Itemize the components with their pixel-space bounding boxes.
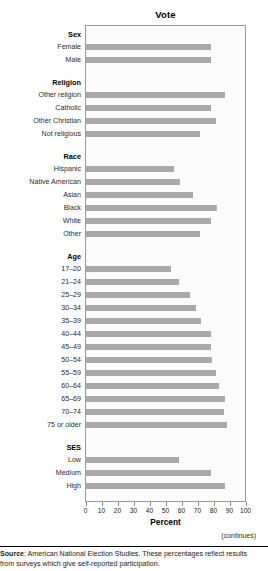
bar-row: Other religion <box>0 89 268 102</box>
bar-row: Female <box>0 41 268 54</box>
footer-divider <box>0 546 268 547</box>
bar-row: 50–54 <box>0 354 268 367</box>
bar-row-label: 60–64 <box>0 380 81 393</box>
bar <box>86 396 225 402</box>
x-axis-title: Percent <box>85 517 246 527</box>
bar-row-label: 25–29 <box>0 289 81 302</box>
bar-row: Other <box>0 228 268 241</box>
bar-row-label: Other <box>0 228 81 241</box>
group-header-ses: SES <box>0 441 268 454</box>
bar <box>86 266 171 272</box>
bar-row: White <box>0 215 268 228</box>
axis-tick-label: 90 <box>222 507 238 514</box>
bar <box>86 422 227 428</box>
bar-row-label: 55–59 <box>0 367 81 380</box>
bar-row: Male <box>0 54 268 67</box>
bar-row-label: 30–34 <box>0 302 81 315</box>
bar-row: 40–44 <box>0 328 268 341</box>
source-text: : American National Election Studies. Th… <box>0 550 247 568</box>
axis-tick-label: 0 <box>78 507 94 514</box>
continues-note: (continues) <box>221 532 256 539</box>
bar <box>86 383 219 389</box>
bar-row: Asian <box>0 189 268 202</box>
axis-tick-label: 50 <box>158 507 174 514</box>
axis-tick <box>118 502 119 506</box>
bar <box>86 279 179 285</box>
source-note: Source: American National Election Studi… <box>0 550 262 569</box>
axis-tick-label: 100 <box>238 507 254 514</box>
bar-row-label: Black <box>0 202 81 215</box>
bar-row: 75 or older <box>0 419 268 432</box>
group-header-sex: Sex <box>0 28 268 41</box>
bar <box>86 292 190 298</box>
bar-row-label: Not religious <box>0 128 81 141</box>
bar <box>86 470 211 476</box>
bar-row: Black <box>0 202 268 215</box>
bar <box>86 483 225 489</box>
axis-tick <box>230 502 231 506</box>
bar-row-label: 35–39 <box>0 315 81 328</box>
bar-row-label: White <box>0 215 81 228</box>
axis-tick-label: 30 <box>126 507 142 514</box>
bar-row-label: Medium <box>0 467 81 480</box>
axis-tick <box>246 502 247 506</box>
group-header-religion: Religion <box>0 76 268 89</box>
group-header-label: Religion <box>0 76 81 89</box>
bar <box>86 344 211 350</box>
axis-tick <box>150 502 151 506</box>
axis-tick-label: 20 <box>110 507 126 514</box>
bar-row: 30–34 <box>0 302 268 315</box>
group-header-race: Race <box>0 150 268 163</box>
bar-row-label: Other Christian <box>0 115 81 128</box>
bar <box>86 179 180 185</box>
bar-row-label: 21–24 <box>0 276 81 289</box>
bar <box>86 57 211 63</box>
bar-row: Catholic <box>0 102 268 115</box>
bar-row-label: 75 or older <box>0 419 81 432</box>
bar <box>86 409 224 415</box>
bar-row-label: 65–69 <box>0 393 81 406</box>
axis-tick <box>166 502 167 506</box>
axis-tick <box>86 502 87 506</box>
bar-row-label: High <box>0 480 81 493</box>
axis-tick <box>102 502 103 506</box>
axis-tick <box>134 502 135 506</box>
bar-row: Other Christian <box>0 115 268 128</box>
bar <box>86 105 211 111</box>
bar <box>86 192 193 198</box>
axis-tick <box>182 502 183 506</box>
bar <box>86 131 200 137</box>
bar <box>86 231 200 237</box>
axis-tick <box>214 502 215 506</box>
bar <box>86 370 216 376</box>
bar-row: 35–39 <box>0 315 268 328</box>
bar <box>86 92 225 98</box>
bar-row-label: 17–20 <box>0 263 81 276</box>
source-label: Source <box>0 550 24 558</box>
bar-row: 21–24 <box>0 276 268 289</box>
bar-row-label: Catholic <box>0 102 81 115</box>
bar <box>86 218 211 224</box>
bar-row-label: Low <box>0 454 81 467</box>
bar <box>86 357 212 363</box>
group-header-age: Age <box>0 250 268 263</box>
bar-row: 60–64 <box>0 380 268 393</box>
bar-row: Native American <box>0 176 268 189</box>
bar-row: 45–49 <box>0 341 268 354</box>
figure-vote-chart: Vote SexFemaleMaleReligionOther religion… <box>0 0 268 571</box>
bar-row: 70–74 <box>0 406 268 419</box>
bar-rows-container: SexFemaleMaleReligionOther religionCatho… <box>0 25 268 502</box>
chart-title: Vote <box>85 9 246 20</box>
bar-row: High <box>0 480 268 493</box>
bar <box>86 205 217 211</box>
bar-row-label: 70–74 <box>0 406 81 419</box>
bar <box>86 305 196 311</box>
bar-row: Hispanic <box>0 163 268 176</box>
group-header-label: Sex <box>0 28 81 41</box>
bar-row-label: Native American <box>0 176 81 189</box>
bar <box>86 166 174 172</box>
axis-tick <box>198 502 199 506</box>
bar-row-label: 50–54 <box>0 354 81 367</box>
bar-row-label: 40–44 <box>0 328 81 341</box>
axis-tick-label: 40 <box>142 507 158 514</box>
